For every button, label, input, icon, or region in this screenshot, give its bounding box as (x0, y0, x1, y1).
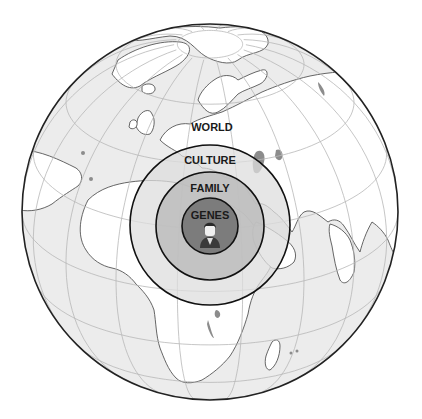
culture-label: CULTURE (184, 154, 236, 166)
island-canaries (89, 177, 93, 181)
genes-label: GENES (191, 209, 230, 221)
family-label: FAMILY (190, 182, 230, 194)
land-south-america (16, 299, 46, 357)
island-azores (81, 151, 85, 155)
island-reunion (296, 350, 299, 353)
identity-globe-diagram: WORLD CULTURE FAMILY GENES (0, 0, 422, 419)
world-label: WORLD (191, 121, 233, 133)
land-ireland (129, 120, 137, 129)
